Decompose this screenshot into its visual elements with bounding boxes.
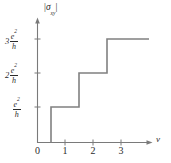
- plot-canvas: [0, 0, 171, 163]
- x-tick-label-2: 2: [87, 146, 100, 156]
- y-tick-3-coefficient: 3: [5, 37, 9, 46]
- y-axis: [35, 18, 40, 144]
- x-tick-label-1: 1: [59, 146, 72, 156]
- y-tick-1-denominator: h: [13, 109, 21, 119]
- y-tick-1-exponent: 2: [17, 96, 20, 102]
- y-tick-3-fraction: e2 h: [10, 31, 18, 51]
- y-axis-title-symbol: σ: [46, 2, 51, 12]
- y-axis-title-subscript: xy: [51, 10, 56, 16]
- step-curve: [51, 39, 149, 143]
- y-tick-2-exponent: 2: [14, 62, 17, 68]
- y-tick-3-denominator: h: [10, 41, 18, 51]
- y-tick-1-fraction: e2 h: [13, 99, 21, 119]
- x-tick-label-0: 0: [31, 146, 44, 156]
- y-axis-title-close-bar: |: [55, 2, 57, 12]
- x-axis-title: ν: [156, 135, 160, 144]
- y-tick-2-fraction: e2 h: [10, 65, 18, 85]
- hall-conductivity-figure: 3 e2 h 2 e2 h e2 h 0 1 2 3 |σxy|: [0, 0, 171, 163]
- y-tick-2-coefficient: 2: [5, 71, 9, 80]
- y-tick-2-denominator: h: [10, 75, 18, 85]
- y-tick-label-2e2h: 2 e2 h: [5, 65, 18, 85]
- x-tick-label-3: 3: [115, 146, 128, 156]
- y-tick-3-exponent: 2: [14, 28, 17, 34]
- y-tick-label-e2h: e2 h: [12, 99, 21, 119]
- y-tick-label-3e2h: 3 e2 h: [5, 31, 18, 51]
- y-axis-title: |σxy|: [44, 3, 57, 14]
